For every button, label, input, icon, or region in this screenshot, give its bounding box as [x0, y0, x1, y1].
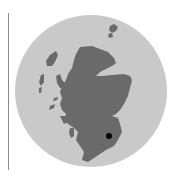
location-marker: [106, 133, 112, 139]
locator-map: [0, 0, 176, 180]
